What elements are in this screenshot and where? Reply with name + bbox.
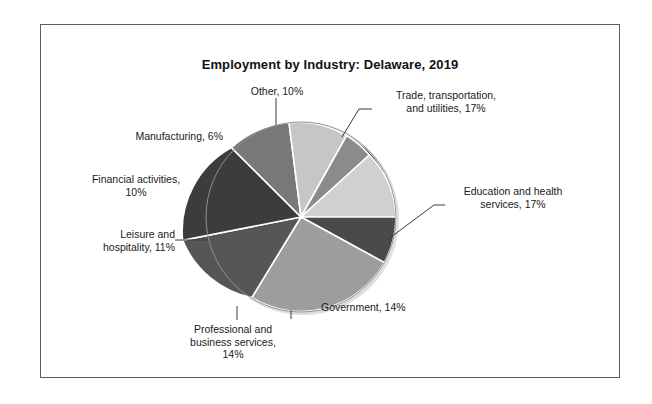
pie-label-manufacturing: Manufacturing, 6%: [91, 130, 223, 143]
pie-label-financial-activities: Financial activities, 10%: [71, 173, 201, 198]
chart-frame: Employment by Industry: Delaware, 2019: [40, 24, 620, 378]
pie-label-professional-business-services: Professional and business services, 14%: [163, 323, 303, 361]
pie-label-government: Government, 14%: [321, 301, 461, 314]
pie-label-leisure-hospitality: Leisure and hospitality, 11%: [63, 228, 175, 253]
pie-label-trade-transportation-utilities: Trade, transportation, and utilities, 17…: [371, 89, 521, 114]
pie-slices: [182, 122, 396, 311]
pie-chart: Trade, transportation, and utilities, 17…: [41, 25, 621, 379]
pie-label-other: Other, 10%: [231, 85, 323, 98]
pie-label-education-health-services: Education and health services, 17%: [443, 185, 583, 210]
